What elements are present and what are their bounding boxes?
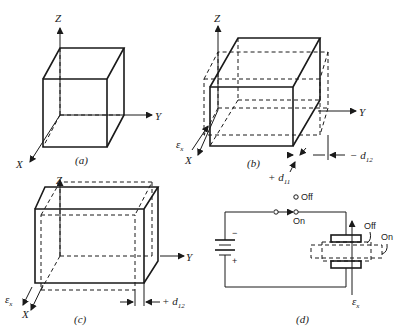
svg-text:Y: Y [359, 106, 367, 118]
svg-text:−: − [232, 228, 237, 238]
svg-text:Z: Z [214, 12, 221, 24]
piezoelectric-deformation-diagram: Z Y X (a) Z Y X εx [0, 0, 404, 335]
switch-off-label: Off [301, 192, 313, 202]
field-label-d: εx [352, 295, 360, 310]
x-axis-label: X [15, 158, 24, 170]
panel-c: Z Y X εx + d12 (c) [5, 174, 194, 326]
plus-d12-label: + d12 [162, 295, 185, 310]
field-label-c: εx [5, 293, 13, 308]
switch[interactable] [274, 195, 298, 214]
caption-d: (d) [296, 313, 309, 326]
minus-d12-label: − d12 [350, 149, 373, 164]
svg-text:Y: Y [186, 251, 194, 263]
caption-c: (c) [74, 313, 87, 326]
caption-a: (a) [75, 154, 88, 167]
panel-b: Z Y X εx − d12 + d11 (b) [176, 12, 373, 186]
plus-d11-label: + d11 [268, 171, 290, 186]
svg-text:X: X [21, 308, 30, 320]
caption-b: (b) [247, 157, 260, 170]
field-label-b: εx [176, 138, 184, 153]
z-axis-label: Z [55, 12, 62, 24]
element-off-label: Off [364, 221, 376, 231]
x-axis [30, 115, 60, 162]
element-on-label: On [381, 232, 393, 242]
svg-text:+: + [232, 256, 237, 266]
panel-a: Z Y X (a) [15, 12, 163, 170]
panel-d: − + Off On εx Off On (d) [215, 192, 393, 326]
y-axis-label: Y [155, 110, 163, 122]
switch-on-label: On [293, 216, 305, 226]
svg-text:X: X [184, 154, 193, 166]
